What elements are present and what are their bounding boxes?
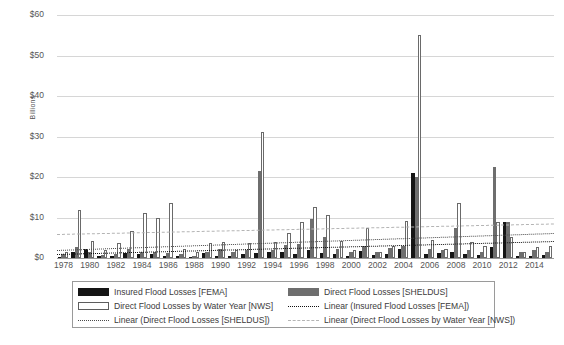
x-tick-label: 1980 — [80, 260, 99, 270]
bar-group — [240, 15, 253, 258]
bar-group — [319, 15, 332, 258]
legend-item[interactable]: Linear (Direct Flood Losses by Water Yea… — [288, 316, 491, 325]
flood-losses-chart: Billions $0$10$20$30$40$50$60 1978198019… — [0, 0, 564, 345]
bar-group — [423, 15, 436, 258]
gridline — [57, 258, 554, 259]
legend-item[interactable]: Direct Flood Losses [SHELDUS] — [288, 288, 491, 297]
bar-nws — [457, 203, 460, 258]
legend-label: Direct Flood Losses [SHELDUS] — [324, 288, 448, 297]
x-tick-label: 2014 — [525, 260, 544, 270]
legend-item[interactable]: Direct Flood Losses by Water Year [NWS] — [78, 302, 288, 311]
y-tick-label: $10 — [0, 213, 44, 222]
bar-group — [462, 15, 475, 258]
bar-nws — [104, 250, 107, 258]
legend-label: Linear (Insured Flood Losses [FEMA]) — [324, 302, 469, 311]
legend-item[interactable]: Linear (Direct Flood Losses [SHELDUS]) — [78, 316, 288, 325]
bar-nws — [549, 246, 552, 258]
bar-nws — [274, 242, 277, 258]
bar-nws — [235, 250, 238, 259]
x-tick-label: 1990 — [211, 260, 230, 270]
line-nws-dashed-icon — [288, 320, 319, 321]
x-tick-label: 1986 — [159, 260, 178, 270]
bar-group — [358, 15, 371, 258]
bar-group — [266, 15, 279, 258]
bar-group — [436, 15, 449, 258]
y-tick-label: $50 — [0, 51, 44, 60]
x-tick-label: 1982 — [106, 260, 125, 270]
bar-nws — [470, 242, 473, 258]
x-tick-label: 1978 — [54, 260, 73, 270]
x-tick-label: 2008 — [446, 260, 465, 270]
x-tick-label: 2012 — [499, 260, 518, 270]
x-tick-label: 2000 — [342, 260, 361, 270]
bar-groups — [57, 15, 554, 258]
bar-nws — [196, 252, 199, 258]
bar-group — [306, 15, 319, 258]
bar-nws — [340, 241, 343, 258]
line-sheldus-dotted-icon — [78, 320, 109, 321]
bar-group — [149, 15, 162, 258]
bar-group — [96, 15, 109, 258]
legend-label: Insured Flood Losses [FEMA] — [114, 288, 227, 297]
x-tick-label: 1992 — [237, 260, 256, 270]
bar-nws — [496, 222, 499, 258]
bar-group — [371, 15, 384, 258]
plot-area — [57, 15, 554, 258]
bar-group — [345, 15, 358, 258]
bar-group — [384, 15, 397, 258]
bar-nws — [261, 132, 264, 258]
bar-nws — [392, 246, 395, 258]
bar-group — [332, 15, 345, 258]
legend-label: Linear (Direct Flood Losses [SHELDUS]) — [114, 316, 270, 325]
bar-group — [70, 15, 83, 258]
bar-nws — [117, 243, 120, 258]
bar-group — [214, 15, 227, 258]
x-tick-label: 2004 — [394, 260, 413, 270]
legend-label: Linear (Direct Flood Losses by Water Yea… — [324, 316, 515, 325]
x-tick-label: 1988 — [185, 260, 204, 270]
x-axis-tick-labels: 1978198019821984198619881990199219941996… — [57, 260, 554, 274]
bar-nws — [418, 35, 421, 258]
bar-nws — [536, 247, 539, 258]
bar-group — [188, 15, 201, 258]
x-tick-label: 1998 — [316, 260, 335, 270]
x-tick-label: 2006 — [420, 260, 439, 270]
x-tick-label: 2002 — [368, 260, 387, 270]
bar-group — [397, 15, 410, 258]
bar-group — [410, 15, 423, 258]
y-tick-label: $60 — [0, 10, 44, 19]
bar-group — [175, 15, 188, 258]
x-tick-label: 1994 — [263, 260, 282, 270]
bar-group — [515, 15, 528, 258]
bar-nws — [130, 231, 133, 258]
bar-nws — [366, 228, 369, 258]
swatch-nws-icon — [78, 302, 109, 310]
bar-nws — [510, 237, 513, 258]
legend-item[interactable]: Linear (Insured Flood Losses [FEMA]) — [288, 302, 491, 311]
bar-group — [279, 15, 292, 258]
bar-nws — [444, 249, 447, 258]
bar-group — [476, 15, 489, 258]
bar-group — [528, 15, 541, 258]
legend-item[interactable]: Insured Flood Losses [FEMA] — [78, 288, 288, 297]
line-fema-dotted-icon — [288, 306, 319, 307]
bar-group — [201, 15, 214, 258]
chart-legend: Insured Flood Losses [FEMA]Direct Flood … — [72, 281, 495, 328]
bar-nws — [523, 252, 526, 258]
bar-group — [502, 15, 515, 258]
bar-nws — [300, 222, 303, 258]
swatch-sheldus-icon — [288, 288, 319, 296]
x-tick-label: 2010 — [473, 260, 492, 270]
bar-group — [57, 15, 70, 258]
y-tick-label: $0 — [0, 253, 44, 262]
bar-nws — [431, 240, 434, 258]
bar-group — [109, 15, 122, 258]
bar-nws — [353, 250, 356, 258]
bar-group — [135, 15, 148, 258]
bar-group — [541, 15, 554, 258]
y-tick-label: $40 — [0, 91, 44, 100]
bar-group — [292, 15, 305, 258]
bar-group — [162, 15, 175, 258]
legend-label: Direct Flood Losses by Water Year [NWS] — [114, 302, 273, 311]
bar-group — [83, 15, 96, 258]
